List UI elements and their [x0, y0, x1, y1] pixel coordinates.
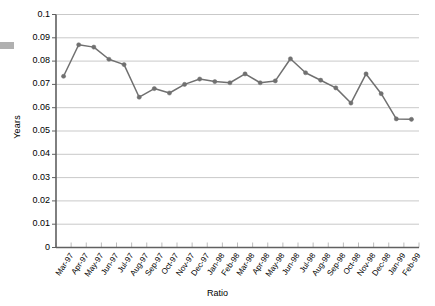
data-point: [77, 43, 81, 47]
data-point: [107, 57, 111, 61]
x-axis-title: Ratio: [0, 288, 435, 298]
data-point: [213, 80, 217, 84]
data-point: [243, 72, 247, 76]
line-chart: Years 0.10.090.080.070.060.050.040.030.0…: [0, 0, 435, 306]
data-point: [303, 71, 307, 75]
data-point: [167, 91, 171, 95]
data-point: [334, 86, 338, 90]
data-point: [152, 86, 156, 90]
data-point: [61, 74, 65, 78]
data-point: [198, 77, 202, 81]
data-point: [394, 117, 398, 121]
data-point: [319, 78, 323, 82]
data-point: [273, 79, 277, 83]
data-point: [364, 72, 368, 76]
data-point: [409, 117, 413, 121]
data-point: [137, 95, 141, 99]
data-point: [228, 81, 232, 85]
data-point: [122, 63, 126, 67]
data-point: [182, 82, 186, 86]
data-point: [349, 101, 353, 105]
data-point: [258, 81, 262, 85]
data-point: [92, 45, 96, 49]
data-point: [379, 92, 383, 96]
plot-area: [0, 0, 435, 306]
data-point: [288, 57, 292, 61]
